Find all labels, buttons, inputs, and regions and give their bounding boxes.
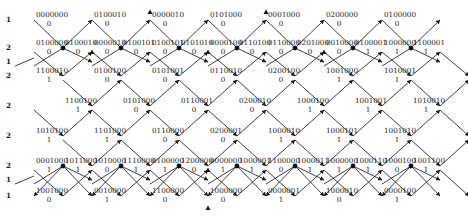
state-code: 0110000 (268, 38, 300, 47)
state-value: 1 (337, 165, 342, 174)
state-code: 0100010 (65, 38, 97, 47)
state-code: 0101000 (210, 10, 242, 19)
state-value: 1 (105, 195, 110, 204)
state-value: 0 (47, 19, 52, 28)
state-code: 0201000 (297, 38, 329, 47)
edge-arrow (440, 170, 468, 196)
state-value: 1 (105, 135, 110, 144)
state-value: 0 (105, 47, 110, 56)
multiplicity-label: 2 (6, 161, 11, 170)
state-code: 1110000 (123, 156, 155, 165)
vertex-marker (206, 206, 211, 211)
state-value: 1 (395, 195, 400, 204)
state-code: 0000000 (36, 10, 68, 19)
state-code: 1001001 (355, 96, 387, 105)
state-code: 0200001 (210, 126, 242, 135)
state-node: 10000011 (239, 156, 271, 174)
state-value: 0 (337, 195, 342, 204)
state-value: 1 (424, 105, 429, 114)
state-code: 1100100 (65, 96, 97, 105)
vertex-marker (322, 50, 327, 55)
state-code: 0101001 (152, 66, 184, 75)
state-code: 1000000 (326, 156, 358, 165)
state-code: 0110001 (181, 96, 213, 105)
state-code: 1001000 (326, 66, 358, 75)
state-code: 1100001 (413, 38, 445, 47)
state-value: 1 (395, 135, 400, 144)
state-code: 0000010 (152, 10, 184, 19)
state-code: 0010000 (326, 38, 358, 47)
state-node: 01101000 (239, 38, 271, 56)
state-code: 1000101 (326, 126, 358, 135)
state-code: 1011000 (65, 156, 97, 165)
state-code: 0200100 (268, 66, 300, 75)
state-value: 0 (163, 195, 168, 204)
state-code: 1000011 (297, 156, 329, 165)
state-node: 00000011 (268, 186, 300, 204)
state-value: 1 (134, 165, 139, 174)
state-code: 1000010 (268, 126, 300, 135)
state-code: 0100000 (36, 38, 68, 47)
state-node: 02000000 (326, 10, 358, 28)
state-value: 1 (366, 105, 371, 114)
state-value: 0 (163, 19, 168, 28)
vertex-marker (206, 168, 211, 173)
state-value: 1 (308, 165, 313, 174)
state-code: 1010010 (413, 96, 445, 105)
state-code: 1001000 (36, 186, 68, 195)
state-node: 01000000 (384, 10, 416, 28)
vertex-marker (90, 50, 95, 55)
state-value: 0 (221, 75, 226, 84)
state-value: 0 (192, 105, 197, 114)
state-value: 1 (424, 47, 429, 56)
state-code: 0100101 (123, 38, 155, 47)
state-code: 0100101 (152, 38, 184, 47)
state-value: 1 (337, 75, 342, 84)
state-code: 1200000 (181, 156, 213, 165)
state-code: 1100000 (268, 156, 300, 165)
state-node: 00000000 (36, 10, 68, 28)
state-code: 1010001 (384, 66, 416, 75)
state-node: 10100011 (384, 66, 416, 84)
state-value: 1 (279, 135, 284, 144)
state-node: 01000100 (94, 10, 126, 28)
state-code: 0110000 (152, 126, 184, 135)
state-code: 0000100 (384, 186, 416, 195)
state-code: 0100100 (94, 66, 126, 75)
edge-arrow (15, 176, 34, 184)
state-value: 0 (134, 105, 139, 114)
state-code: 0010000 (94, 186, 126, 195)
state-value: 1 (337, 135, 342, 144)
state-value: 0 (192, 165, 197, 174)
state-value: 0 (308, 47, 313, 56)
state-value: 1 (250, 165, 255, 174)
state-value: 1 (308, 105, 313, 114)
state-value: 1 (279, 195, 284, 204)
state-code: 1001010 (384, 126, 416, 135)
state-value: 0 (337, 19, 342, 28)
state-value: 1 (424, 165, 429, 174)
state-code: 0100000 (152, 156, 184, 165)
state-value: 0 (105, 75, 110, 84)
multiplicity-label: 1 (6, 15, 11, 24)
state-value: 1 (47, 75, 52, 84)
state-code: 1000110 (355, 156, 387, 165)
state-code: 0001000 (36, 156, 68, 165)
state-code: 0100010 (94, 10, 126, 19)
state-code: 0200010 (239, 96, 271, 105)
state-code: 1101000 (94, 126, 126, 135)
vertex-marker (206, 50, 211, 55)
state-code: 1000100 (297, 96, 329, 105)
state-value: 0 (47, 195, 52, 204)
edge-arrow (15, 58, 34, 66)
state-value: 1 (76, 105, 81, 114)
state-value: 0 (76, 47, 81, 56)
state-value: 1 (47, 135, 52, 144)
state-code: 0101010 (181, 38, 213, 47)
multiplicity-label: 2 (6, 101, 11, 110)
state-value: 0 (221, 47, 226, 56)
state-value: 0 (105, 165, 110, 174)
state-value: 0 (279, 47, 284, 56)
state-value: 0 (250, 105, 255, 114)
state-value: 0 (250, 47, 255, 56)
